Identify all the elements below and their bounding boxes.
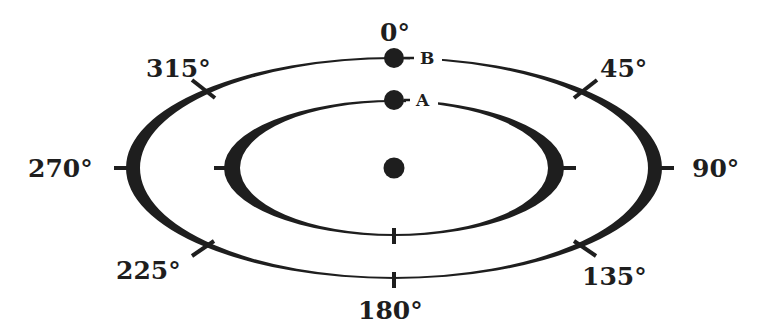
angle-label-90: 90° <box>692 156 739 181</box>
angle-label-45: 45° <box>600 56 647 81</box>
orbit-diagram: 0° 45° 90° 135° 180° 225° 270° 315° B A <box>0 0 774 332</box>
angle-label-225: 225° <box>116 258 181 283</box>
point-a-dot <box>384 90 404 110</box>
angle-label-180: 180° <box>358 298 423 323</box>
point-b-dot <box>384 48 404 68</box>
point-label-b: B <box>420 50 434 67</box>
outer-ticks <box>114 80 674 288</box>
angle-label-270: 270° <box>28 156 93 181</box>
angle-label-0: 0° <box>380 20 410 45</box>
point-label-a: A <box>416 92 429 109</box>
angle-label-135: 135° <box>582 264 647 289</box>
central-body-dot <box>384 158 405 179</box>
angle-label-315: 315° <box>146 56 211 81</box>
